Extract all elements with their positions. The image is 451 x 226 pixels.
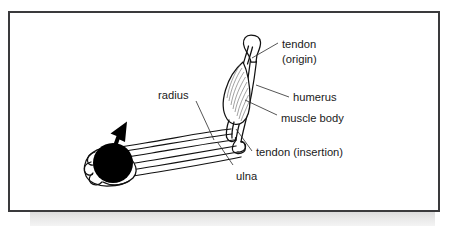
label-tendon-insertion: tendon (insertion) [256,146,343,158]
label-tendon-origin-line1: tendon [282,38,316,50]
forearm-ventral-contour [125,157,241,177]
muscle-body-group [223,62,250,124]
leader-tendon-insertion [236,129,252,151]
label-radius: radius [158,89,189,101]
label-tendon-origin-line2: (origin) [282,53,317,65]
muscle-body-outline [223,62,250,124]
anatomy-diagram: tendon (origin) humerus muscle body tend… [0,0,451,226]
label-ulna: ulna [236,170,258,182]
label-humerus: humerus [293,91,337,103]
tendon-insertion-edge-2 [232,122,234,138]
figure-root: tendon (origin) humerus muscle body tend… [0,0,451,226]
label-muscle-body: muscle body [281,112,344,124]
leader-humerus [256,85,289,97]
